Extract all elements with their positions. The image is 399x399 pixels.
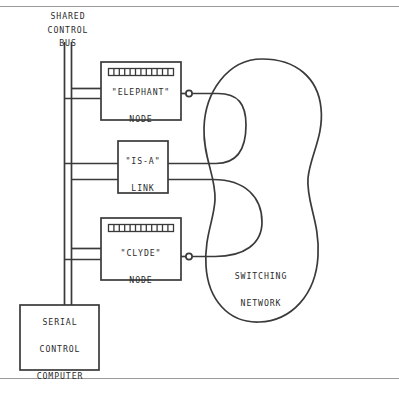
serial-control-computer-label: SERIAL CONTROL COMPUTER bbox=[37, 316, 84, 384]
elephant-node-label: "ELEPHANT" NODE bbox=[112, 86, 170, 127]
clyde-node-label: "CLYDE" NODE bbox=[121, 247, 162, 288]
shared-control-bus-label: SHARED CONTROL BUS bbox=[48, 10, 89, 51]
elephant-output-terminal[interactable] bbox=[186, 90, 192, 96]
switching-network-label: SWITCHING NETWORK bbox=[235, 270, 287, 311]
isa-link-label: "IS-A" LINK bbox=[126, 155, 161, 196]
figure-page: SHARED CONTROL BUS "ELEPHANT" NODE "IS-A… bbox=[0, 0, 399, 399]
clyde-output-terminal[interactable] bbox=[186, 253, 192, 259]
